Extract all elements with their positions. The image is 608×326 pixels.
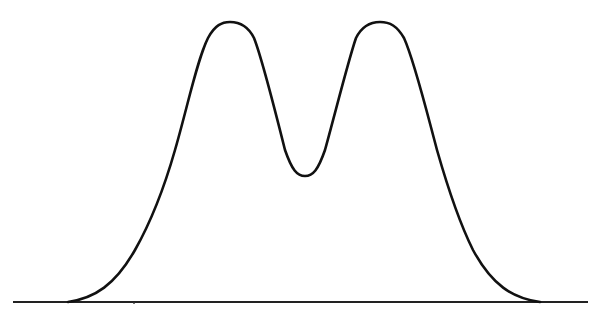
chart-container: [0, 0, 608, 326]
baseline-tick-mark: [133, 302, 135, 304]
chart-background: [0, 0, 608, 326]
bimodal-distribution-chart: [0, 0, 608, 326]
